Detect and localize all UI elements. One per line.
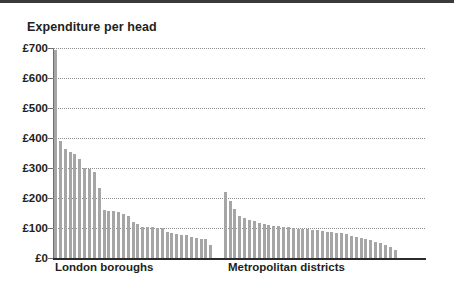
- bar-metropolitan-district: [384, 245, 387, 258]
- bar-metropolitan-district: [389, 247, 392, 258]
- bar-metropolitan-district: [316, 230, 319, 258]
- y-tick-mark-100: [48, 228, 53, 229]
- y-axis-tick-labels: £0£100£200£300£400£500£600£700: [0, 3, 48, 289]
- bar-metropolitan-district: [301, 229, 304, 258]
- bar-metropolitan-district: [233, 209, 236, 259]
- bar-metropolitan-district: [311, 230, 314, 258]
- bar-metropolitan-district: [369, 240, 372, 258]
- bar-metropolitan-district: [306, 229, 309, 258]
- y-tick-label-600: £600: [22, 72, 48, 84]
- bar-metropolitan-district: [330, 232, 333, 258]
- y-tick-label-700: £700: [22, 42, 48, 54]
- bar-metropolitan-district: [238, 216, 241, 258]
- bar-metropolitan-district: [253, 221, 256, 258]
- group-label-metropolitan-districts: Metropolitan districts: [228, 261, 345, 273]
- y-tick-label-300: £300: [22, 162, 48, 174]
- bar-metropolitan-district: [355, 237, 358, 258]
- bar-metropolitan-district: [340, 233, 343, 258]
- group-label-london-boroughs: London boroughs: [55, 261, 153, 273]
- bar-metropolitan-district: [374, 242, 377, 259]
- bar-metropolitan-district: [263, 224, 266, 258]
- x-axis-line: [53, 258, 426, 260]
- y-tick-label-200: £200: [22, 192, 48, 204]
- bar-metropolitan-district: [267, 225, 270, 258]
- y-tick-mark-0: [48, 258, 53, 259]
- bar-metropolitan-district: [360, 238, 363, 258]
- bar-metropolitan-district: [335, 233, 338, 258]
- y-tick-mark-600: [48, 78, 53, 79]
- y-tick-label-0: £0: [35, 252, 48, 264]
- y-tick-mark-200: [48, 198, 53, 199]
- bar-metropolitan-district: [350, 236, 353, 258]
- bar-series-metropolitan-districts: [53, 48, 425, 258]
- bar-metropolitan-district: [379, 243, 382, 258]
- bar-metropolitan-district: [292, 228, 295, 258]
- chart-frame: Expenditure per head £0£100£200£300£400£…: [0, 0, 454, 289]
- bar-metropolitan-district: [297, 229, 300, 258]
- bar-metropolitan-district: [224, 192, 227, 258]
- bar-metropolitan-district: [248, 220, 251, 258]
- bar-metropolitan-district: [258, 223, 261, 258]
- bar-metropolitan-district: [345, 234, 348, 258]
- bar-metropolitan-district: [277, 226, 280, 258]
- plot-area: [53, 48, 425, 258]
- bar-metropolitan-district: [243, 218, 246, 258]
- y-tick-mark-300: [48, 168, 53, 169]
- bar-metropolitan-district: [394, 250, 397, 258]
- bar-metropolitan-district: [282, 227, 285, 258]
- bar-metropolitan-district: [272, 226, 275, 258]
- y-tick-label-100: £100: [22, 222, 48, 234]
- bar-metropolitan-district: [326, 232, 329, 258]
- y-tick-mark-400: [48, 138, 53, 139]
- y-tick-mark-500: [48, 108, 53, 109]
- y-tick-mark-700: [48, 48, 53, 49]
- bar-metropolitan-district: [229, 201, 232, 258]
- y-tick-label-400: £400: [22, 132, 48, 144]
- bar-metropolitan-district: [287, 227, 290, 258]
- y-tick-label-500: £500: [22, 102, 48, 114]
- bar-metropolitan-district: [321, 231, 324, 258]
- bar-metropolitan-district: [364, 239, 367, 258]
